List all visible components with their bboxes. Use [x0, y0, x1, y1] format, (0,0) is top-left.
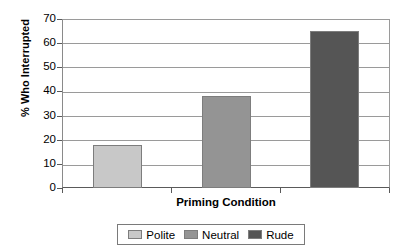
legend-item-polite: Polite [128, 229, 175, 241]
x-axis-title: Priming Condition [62, 196, 390, 208]
legend-label-neutral: Neutral [202, 229, 239, 241]
legend-label-polite: Polite [146, 229, 175, 241]
y-tick-label-30: 30 [16, 110, 56, 122]
legend-item-neutral: Neutral [184, 229, 239, 241]
x-tick-mark-3 [389, 188, 390, 193]
legend: Polite Neutral Rude [117, 224, 305, 245]
y-tick-label-40: 40 [16, 85, 56, 97]
legend-swatch-polite [128, 230, 142, 239]
x-tick-mark-1 [171, 188, 172, 193]
legend-swatch-rude [248, 230, 262, 239]
bar-polite [93, 145, 142, 188]
plot-area [62, 19, 390, 188]
y-tick-label-50: 50 [16, 61, 56, 73]
bar-neutral [202, 96, 251, 188]
legend-label-rude: Rude [266, 229, 294, 241]
x-tick-mark-2 [280, 188, 281, 193]
legend-swatch-neutral [184, 230, 198, 239]
y-tick-label-10: 10 [16, 158, 56, 170]
y-tick-label-20: 20 [16, 134, 56, 146]
y-tick-label-60: 60 [16, 37, 56, 49]
bar-rude [310, 31, 359, 188]
y-tick-label-0: 0 [16, 182, 56, 194]
legend-item-rude: Rude [248, 229, 294, 241]
y-tick-label-70: 70 [16, 13, 56, 25]
bar-chart: % Who Interrupted 70 60 50 40 30 20 10 0… [0, 0, 412, 252]
x-tick-mark-0 [62, 188, 63, 193]
